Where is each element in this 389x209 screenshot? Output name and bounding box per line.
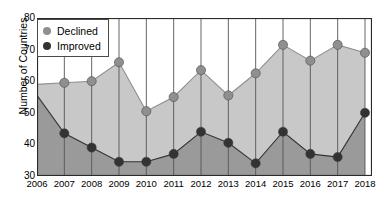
datapoint-declined-2018 bbox=[360, 48, 369, 57]
datapoint-improved-2015 bbox=[278, 127, 287, 136]
legend-label-improved: Improved bbox=[57, 40, 101, 52]
datapoint-improved-2018 bbox=[360, 108, 369, 117]
legend-marker-improved-icon bbox=[43, 42, 51, 50]
datapoint-improved-2012 bbox=[196, 127, 205, 136]
datapoint-declined-2012 bbox=[196, 66, 205, 75]
datapoint-declined-2009 bbox=[114, 58, 123, 67]
datapoint-declined-2010 bbox=[142, 107, 151, 116]
x-axis-tick-labels: 2006200720082009201020112012201320142015… bbox=[0, 178, 389, 198]
datapoint-declined-2014 bbox=[251, 69, 260, 78]
datapoint-improved-2008 bbox=[87, 143, 96, 152]
datapoint-improved-2009 bbox=[114, 157, 123, 166]
y-tick-50: 50 bbox=[9, 107, 35, 118]
datapoint-improved-2016 bbox=[306, 149, 315, 158]
datapoint-declined-2015 bbox=[278, 40, 287, 49]
legend-item-improved: Improved bbox=[43, 38, 101, 53]
area-chart: Number of Countries 807060504030 2006200… bbox=[0, 0, 389, 209]
datapoint-improved-2010 bbox=[142, 157, 151, 166]
datapoint-improved-2011 bbox=[169, 149, 178, 158]
y-tick-70: 70 bbox=[9, 44, 35, 55]
x-tick-2018: 2018 bbox=[345, 178, 385, 189]
datapoint-improved-2013 bbox=[224, 138, 233, 147]
chart-legend: Declined Improved bbox=[37, 19, 109, 57]
legend-marker-declined-icon bbox=[43, 27, 51, 35]
y-tick-80: 80 bbox=[9, 12, 35, 23]
legend-label-declined: Declined bbox=[57, 25, 98, 37]
datapoint-improved-2014 bbox=[251, 159, 260, 168]
y-tick-60: 60 bbox=[9, 75, 35, 86]
datapoint-declined-2017 bbox=[333, 40, 342, 49]
datapoint-improved-2007 bbox=[60, 129, 69, 138]
legend-item-declined: Declined bbox=[43, 23, 101, 38]
datapoint-improved-2017 bbox=[333, 152, 342, 161]
datapoint-declined-2011 bbox=[169, 92, 178, 101]
y-tick-40: 40 bbox=[9, 138, 35, 149]
datapoint-declined-2013 bbox=[224, 91, 233, 100]
datapoint-declined-2016 bbox=[306, 56, 315, 65]
datapoint-declined-2007 bbox=[60, 78, 69, 87]
datapoint-declined-2008 bbox=[87, 77, 96, 86]
